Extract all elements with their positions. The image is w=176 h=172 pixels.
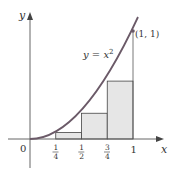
svg-text:1: 1 [54, 143, 59, 152]
origin-label: 0 [20, 143, 26, 154]
svg-text:4: 4 [54, 152, 59, 161]
riemann-sum-diagram: y x 0 (1, 1) y = x2 1 4 1 2 3 4 1 [0, 0, 176, 172]
rect-3 [82, 113, 108, 139]
svg-text:1: 1 [79, 143, 84, 152]
point-label: (1, 1) [135, 29, 159, 39]
x-axis-label: x [161, 143, 168, 156]
svg-text:1: 1 [131, 144, 137, 155]
y-axis-label: y [18, 9, 26, 22]
rect-2 [56, 133, 82, 139]
svg-text:4: 4 [105, 152, 110, 161]
rectangles [56, 81, 133, 139]
svg-text:3: 3 [105, 143, 110, 152]
tick-labels: 1 4 1 2 3 4 1 [53, 143, 137, 161]
curve-label: y = x2 [82, 48, 114, 60]
rect-4 [107, 81, 133, 139]
svg-text:2: 2 [79, 152, 84, 161]
